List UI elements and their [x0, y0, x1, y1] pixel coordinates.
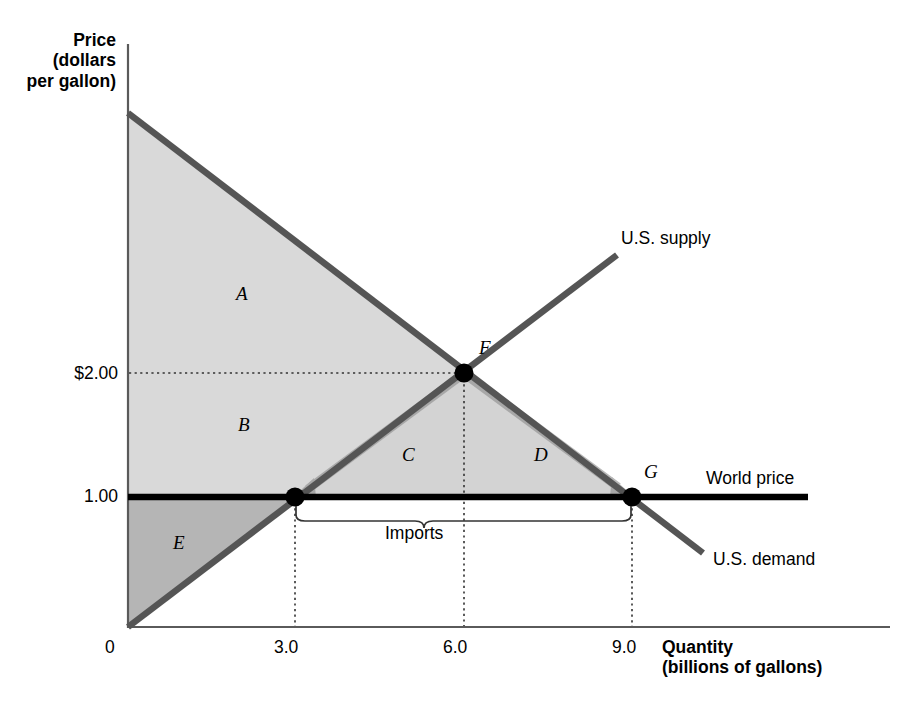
- x-axis-title-line2: (billions of gallons): [662, 657, 822, 677]
- point-f-marker: [455, 364, 474, 383]
- chart-canvas: [0, 0, 917, 706]
- curve-label-us-supply: U.S. supply: [621, 228, 710, 248]
- y-axis-title-line3: per gallon): [12, 71, 116, 91]
- curve-label-world-price: World price: [706, 468, 794, 488]
- region-label-b: B: [238, 414, 250, 436]
- x-axis-title: Quantity (billions of gallons): [662, 637, 822, 678]
- x-axis-title-line1: Quantity: [662, 637, 822, 657]
- imports-label: Imports: [385, 523, 443, 543]
- origin-label: 0: [105, 637, 115, 657]
- y-axis-title: Price (dollars per gallon): [12, 30, 116, 91]
- x-tick-9-0: 9.0: [612, 637, 636, 657]
- point-label-f: F: [479, 337, 491, 359]
- y-axis-title-line2: (dollars: [12, 50, 116, 70]
- y-tick-2-00: $2.00: [24, 363, 118, 383]
- x-tick-3-0: 3.0: [274, 637, 298, 657]
- region-label-d: D: [534, 444, 548, 466]
- region-label-c: C: [402, 444, 415, 466]
- y-axis-title-line1: Price: [12, 30, 116, 50]
- y-tick-1-00: 1.00: [24, 486, 118, 506]
- point-label-g: G: [644, 461, 658, 483]
- region-label-a: A: [236, 283, 248, 305]
- region-label-e: E: [173, 532, 185, 554]
- trade-surplus-chart: Price (dollars per gallon) Quantity (bil…: [0, 0, 917, 706]
- x-tick-6-0: 6.0: [443, 637, 467, 657]
- curve-label-us-demand: U.S. demand: [713, 549, 815, 569]
- point-g-marker: [623, 488, 642, 507]
- point-autarky-left-marker: [286, 488, 305, 507]
